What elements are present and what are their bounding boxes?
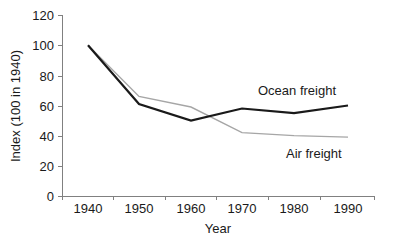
y-tick-label-40: 40 [40, 129, 54, 144]
y-tick-label-80: 80 [40, 69, 54, 84]
series-annotation-ocean-freight: Ocean freight [258, 83, 336, 98]
y-tick-label-60: 60 [40, 99, 54, 114]
y-axis-title: Index (100 in 1940) [8, 50, 23, 162]
line-chart: 0 20 40 60 80 100 120 1940 1950 1960 197… [0, 0, 393, 239]
y-tick-label-0: 0 [47, 189, 54, 204]
y-tick-label-120: 120 [32, 8, 54, 23]
y-tick-label-100: 100 [32, 38, 54, 53]
x-tick-label-1950: 1950 [125, 201, 154, 216]
y-axis-ticks [58, 16, 62, 197]
x-tick-label-1990: 1990 [334, 201, 363, 216]
x-tick-label-1960: 1960 [177, 201, 206, 216]
y-tick-label-20: 20 [40, 159, 54, 174]
x-tick-label-1970: 1970 [228, 201, 257, 216]
x-tick-label-1940: 1940 [74, 201, 103, 216]
x-axis-title: Year [205, 221, 232, 236]
series-annotation-air-freight: Air freight [286, 146, 342, 161]
chart-container: 0 20 40 60 80 100 120 1940 1950 1960 197… [0, 0, 393, 239]
x-tick-label-1980: 1980 [280, 201, 309, 216]
